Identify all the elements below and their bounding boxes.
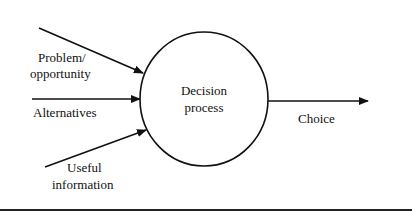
input-label-alternatives: Alternatives [33,105,97,120]
input-label-information: information [52,177,114,192]
input-label-opportunity: opportunity [30,66,91,81]
input-label-problem: Problem/ [38,50,86,65]
decision-process-node [140,32,268,166]
input-label-useful: Useful [67,160,102,175]
decision-diagram: Decision process Problem/ opportunity Al… [0,0,417,212]
output-label-choice: Choice [298,111,335,126]
process-label-1: Decision [181,83,228,98]
process-label-2: process [185,100,224,115]
